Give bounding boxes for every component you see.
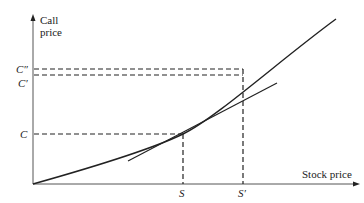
tick-label-c: C: [20, 128, 27, 140]
tick-label-s: S: [179, 187, 185, 199]
call-price-curve: [33, 19, 336, 184]
tick-label-c-double-prime: C″: [16, 63, 28, 75]
y-axis-label-line2: price: [40, 26, 62, 38]
x-axis-arrow-icon: [353, 182, 360, 187]
y-axis-arrow-icon: [31, 14, 36, 21]
tangent-line: [128, 83, 277, 161]
tick-label-c-prime: C′: [18, 77, 28, 89]
x-axis-label: Stock price: [302, 168, 352, 180]
tick-label-s-prime: S′: [238, 187, 246, 199]
y-axis-label-line1: Call: [40, 14, 58, 26]
